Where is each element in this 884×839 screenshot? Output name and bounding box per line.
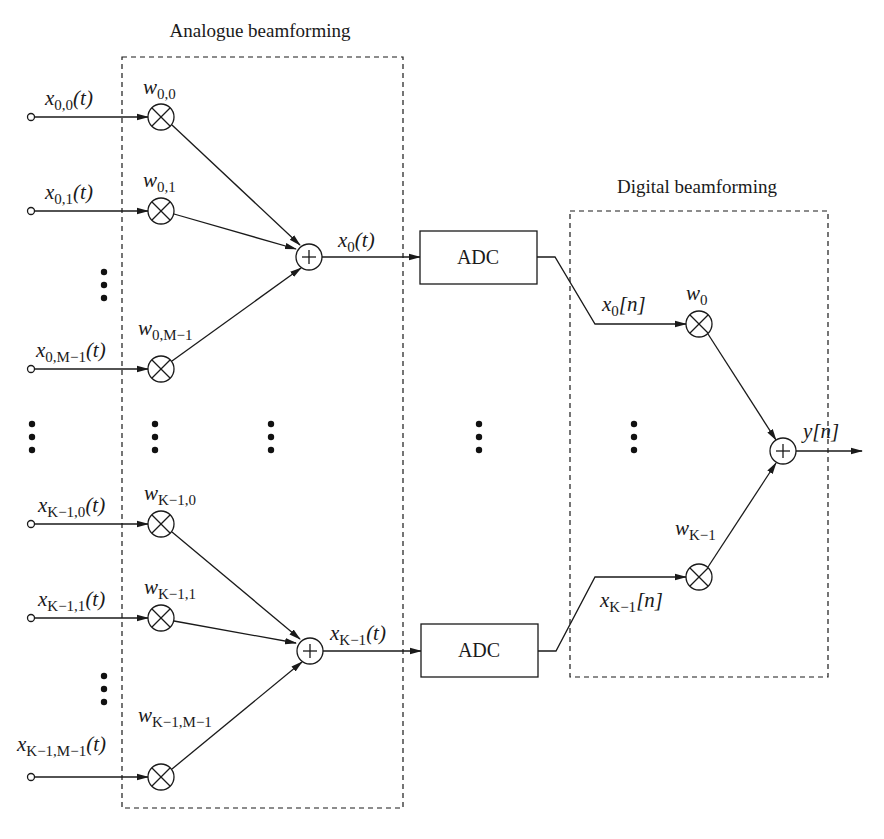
vertical-ellipsis-icon (476, 421, 482, 453)
vertical-ellipsis-icon (268, 421, 274, 453)
input-terminal-icon (28, 114, 35, 121)
weight-label-wkm: wK−1,M−1 (138, 703, 212, 730)
multiplier-icon (686, 311, 712, 337)
adc-block-0: ADC (420, 231, 537, 284)
vertical-ellipsis-icon (152, 421, 158, 453)
multiplier-to-adder-wires (172, 125, 302, 769)
input-label-x00: x0,0(t) (44, 86, 93, 113)
input-terminal-icon (28, 774, 35, 781)
vertical-ellipsis-icon (101, 673, 107, 705)
adc-label: ADC (457, 246, 499, 268)
input-label-xk0: xK−1,0(t) (37, 493, 105, 520)
multiplier-icon (148, 764, 174, 790)
weight-label-wk1: wK−1,1 (144, 575, 196, 602)
input-terminal-icon (28, 615, 35, 622)
adc-block-1: ADC (421, 624, 538, 677)
weight-label-w01: w0,1 (143, 168, 176, 195)
multiplier-icon (148, 605, 174, 631)
adder-icon (297, 638, 323, 664)
digital-to-adder-wire (708, 463, 776, 567)
analogue-multipliers (148, 104, 174, 790)
input-terminal-icon (28, 366, 35, 373)
input-terminal-icon (28, 208, 35, 215)
multiplier-icon (686, 564, 712, 590)
digital-weight-label-w0: w0 (686, 281, 708, 308)
multiplier-icon (148, 511, 174, 537)
multiplier-icon (148, 104, 174, 130)
adder-icon (296, 244, 322, 270)
vertical-ellipsis-icon (101, 269, 107, 301)
vertical-ellipsis-icon (631, 421, 637, 453)
weight-label-w00: w0,0 (143, 75, 176, 102)
output-label-yn: y[n] (801, 419, 839, 443)
input-label-x0m: x0,M−1(t) (35, 338, 106, 365)
adc-label: ADC (458, 639, 500, 661)
digital-beamforming-title: Digital beamforming (617, 176, 777, 197)
analogue-output-label-xk: xK−1(t) (329, 621, 386, 648)
weight-label-wk0: wK−1,0 (144, 481, 196, 508)
input-label-x01: x0,1(t) (44, 180, 93, 207)
digital-to-adder-wire (708, 334, 776, 440)
digital-weight-label-wk: wK−1 (675, 516, 716, 543)
digital-input-label-x0n: x0[n] (601, 292, 646, 319)
adder-icon (770, 438, 796, 464)
input-wires (35, 117, 148, 777)
input-label-xk1: xK−1,1(t) (37, 587, 105, 614)
multiplier-icon (148, 356, 174, 382)
weight-label-w0m: w0,M−1 (138, 316, 193, 343)
analogue-output-label-x0: x0(t) (337, 228, 375, 255)
input-label-xkm: xK−1,M−1(t) (16, 732, 106, 759)
analogue-adders (296, 244, 323, 664)
analogue-beamforming-title: Analogue beamforming (170, 20, 351, 41)
multiplier-icon (148, 198, 174, 224)
digital-input-label-xkn: xK−1[n] (599, 588, 663, 615)
vertical-ellipsis-icon (29, 421, 35, 453)
input-terminal-icon (28, 521, 35, 528)
beamforming-diagram: Analogue beamforming Digital beamforming (0, 0, 884, 839)
